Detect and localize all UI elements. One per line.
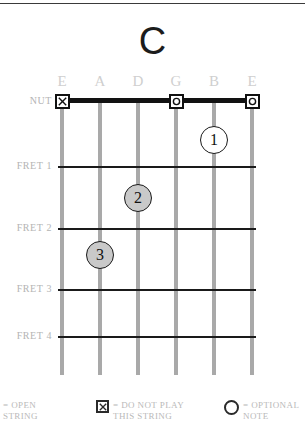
string-line-0 (60, 100, 64, 375)
finger-dot-1: 1 (200, 126, 228, 154)
legend-text-2: = OPTIONAL NOTE (243, 400, 299, 422)
optional-note-icon (224, 400, 239, 415)
fret-line-3 (58, 289, 256, 291)
row-label-nut: NUT (0, 95, 52, 107)
open-string-icon (245, 94, 260, 109)
chord-diagram-page: C EADGBE NUTFRET 1FRET 2FRET 3FRET 4123 … (0, 0, 305, 431)
legend-item-0: = OPEN STRING (0, 400, 38, 422)
string-label-5: E (241, 72, 263, 90)
string-label-2: D (127, 72, 149, 90)
row-label-fret-3: FRET 3 (0, 283, 52, 295)
string-line-2 (136, 100, 140, 375)
legend-item-2: = OPTIONAL NOTE (224, 400, 299, 422)
do-not-play-icon (96, 400, 109, 413)
do-not-play-icon (55, 94, 70, 109)
open-string-icon (169, 94, 184, 109)
legend-text-0: = OPEN STRING (3, 400, 38, 422)
row-label-fret-1: FRET 1 (0, 160, 52, 172)
string-label-4: B (203, 72, 225, 90)
string-line-1 (98, 100, 102, 375)
legend-item-1: = DO NOT PLAY THIS STRING (96, 400, 184, 422)
string-label-3: G (165, 72, 187, 90)
string-line-3 (174, 100, 178, 375)
fret-line-4 (58, 336, 256, 338)
legend: = OPEN STRING= DO NOT PLAY THIS STRING= … (0, 400, 305, 431)
row-label-fret-2: FRET 2 (0, 222, 52, 234)
finger-dot-3: 3 (86, 241, 114, 269)
nut-bar (58, 98, 256, 103)
finger-dot-2: 2 (124, 184, 152, 212)
legend-text-1: = DO NOT PLAY THIS STRING (113, 400, 184, 422)
row-label-fret-4: FRET 4 (0, 330, 52, 342)
string-label-1: A (89, 72, 111, 90)
string-line-5 (250, 100, 254, 375)
fret-line-1 (58, 166, 256, 168)
fret-line-2 (58, 228, 256, 230)
chord-name-title: C (0, 18, 305, 64)
string-label-0: E (51, 72, 73, 90)
top-divider (0, 3, 305, 4)
